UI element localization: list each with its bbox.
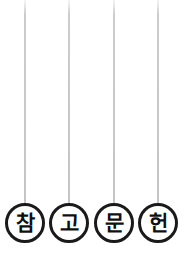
hanger-string-3	[114, 0, 115, 204]
badge-circle-2: 고	[49, 203, 89, 243]
badge-circle-3: 문	[94, 203, 134, 243]
badge-character-2: 고	[60, 212, 79, 233]
hanger-string-1	[25, 0, 26, 204]
hanging-badge-3: 문	[93, 0, 135, 254]
badge-circle-1: 참	[5, 203, 45, 243]
hanging-badge-4: 헌	[137, 0, 179, 254]
hanger-string-4	[158, 0, 159, 204]
badge-character-4: 헌	[149, 212, 168, 233]
hanger-string-2	[69, 0, 70, 204]
badge-character-1: 참	[16, 212, 35, 233]
badge-circle-4: 헌	[138, 203, 178, 243]
hanging-badges-graphic: 참 고 문 헌	[0, 0, 185, 254]
hanging-badge-2: 고	[48, 0, 90, 254]
badge-character-3: 문	[105, 212, 124, 233]
hanging-badge-1: 참	[4, 0, 46, 254]
